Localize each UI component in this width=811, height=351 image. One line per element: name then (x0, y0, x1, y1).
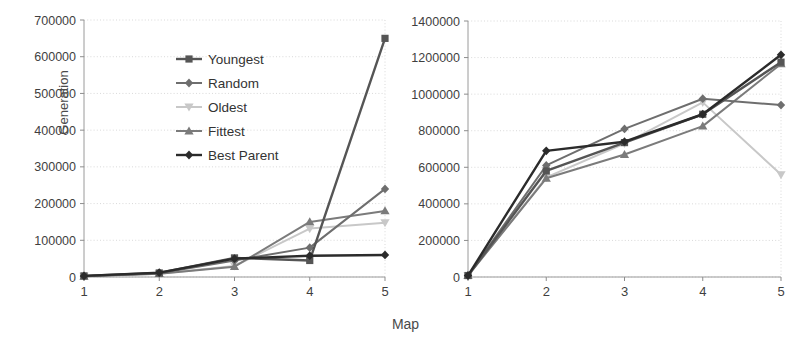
chart-panel-right: 0200000400000600000800000100000012000001… (400, 0, 811, 315)
y-tick-labels: 0200000400000600000800000100000012000001… (411, 15, 468, 285)
series-best-parent (464, 50, 785, 280)
y-tick-label: 400000 (418, 197, 460, 211)
series-line (468, 62, 781, 275)
figure-container: Generation 01000002000003000004000005000… (0, 0, 811, 351)
x-tick-label: 1 (464, 284, 471, 299)
y-tick-label: 1400000 (411, 15, 460, 29)
series-youngest (464, 59, 784, 280)
x-tick-label: 2 (156, 284, 163, 299)
series-random (464, 94, 785, 280)
legend-item-oldest: Oldest (176, 100, 247, 115)
data-point (777, 101, 785, 110)
x-tick-label: 5 (777, 284, 784, 299)
y-tick-label: 200000 (34, 197, 76, 211)
y-tick-label: 700000 (34, 14, 76, 28)
y-axis-title: Generation (56, 38, 71, 168)
x-tick-label: 3 (231, 284, 238, 299)
legend-marker (185, 151, 193, 160)
x-tick-labels: 12345 (464, 277, 784, 299)
y-tick-label: 1200000 (411, 51, 460, 65)
legend-marker (185, 55, 192, 62)
series-line (468, 55, 781, 276)
legend-item-youngest: Youngest (176, 52, 264, 67)
y-tick-label: 800000 (418, 124, 460, 138)
legend-label: Oldest (208, 100, 247, 115)
chart-panel-left: Generation 01000002000003000004000005000… (0, 0, 400, 315)
x-tick-labels: 12345 (80, 277, 388, 299)
legend-item-fittest: Fittest (176, 124, 245, 139)
series-line (468, 64, 781, 276)
axes (468, 21, 781, 277)
legend-item-best-parent: Best Parent (176, 148, 279, 163)
data-point (777, 59, 784, 66)
legend-label: Youngest (208, 52, 264, 67)
legend-label: Fittest (208, 124, 245, 139)
x-tick-label: 2 (543, 284, 550, 299)
y-tick-label: 0 (69, 271, 76, 285)
x-tick-label: 4 (699, 284, 706, 299)
y-tick-label: 1000000 (411, 88, 460, 102)
legend-label: Best Parent (208, 148, 279, 163)
x-tick-label: 5 (381, 284, 388, 299)
line-chart-right: 0200000400000600000800000100000012000001… (400, 0, 811, 315)
data-point (620, 124, 628, 133)
x-axis-title: Map (0, 316, 811, 332)
x-tick-label: 1 (80, 284, 87, 299)
legend-item-random: Random (176, 76, 259, 91)
chart-legend: YoungestRandomOldestFittestBest Parent (176, 52, 279, 163)
series-oldest (79, 219, 389, 281)
data-point (380, 206, 389, 214)
data-point (381, 251, 389, 260)
legend-label: Random (208, 76, 259, 91)
x-tick-label: 3 (621, 284, 628, 299)
y-tick-label: 200000 (418, 234, 460, 248)
gridlines (468, 21, 781, 277)
x-tick-label: 4 (306, 284, 313, 299)
data-point (776, 171, 785, 179)
y-tick-label: 100000 (34, 234, 76, 248)
data-point (381, 35, 388, 42)
y-tick-label: 0 (453, 271, 460, 285)
legend-marker (185, 79, 193, 88)
y-tick-label: 600000 (418, 161, 460, 175)
series-fittest (79, 206, 389, 279)
data-point (543, 167, 550, 174)
